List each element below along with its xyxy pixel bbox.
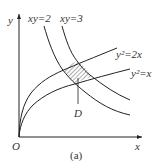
curve-y2-2x — [19, 48, 117, 137]
origin-label: O — [12, 140, 20, 152]
label-xy2: xy=2 — [27, 12, 51, 24]
label-xy3: xy=3 — [59, 12, 83, 24]
label-y2-2x: y²=2x — [115, 48, 142, 60]
label-y2-x: y²=x — [130, 67, 152, 79]
x-axis-label: x — [134, 140, 140, 152]
diagram-canvas: y x O xy=2 xy=3 y²=2x y²=x D (a) — [0, 0, 159, 167]
region-d-label: D — [73, 107, 82, 119]
y-axis-label: y — [7, 14, 13, 26]
curve-xy3 — [62, 26, 130, 100]
figure-caption: (a) — [70, 149, 83, 162]
